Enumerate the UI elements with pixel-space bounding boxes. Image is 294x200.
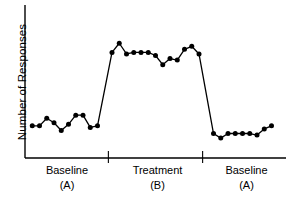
data-series-group [30, 41, 274, 141]
data-point [59, 128, 64, 133]
phase-label-name: Baseline [26, 163, 108, 178]
data-point [52, 120, 57, 125]
data-point [44, 116, 49, 121]
data-point [81, 113, 86, 118]
data-point [218, 136, 223, 141]
data-point [211, 131, 216, 136]
data-point [269, 123, 274, 128]
axes-group [25, 5, 286, 158]
phase-divider-group [108, 151, 202, 163]
data-point [160, 62, 165, 67]
data-point [233, 131, 238, 136]
data-point [88, 125, 93, 130]
data-point [168, 56, 173, 61]
data-point [240, 131, 245, 136]
y-axis-title: Number of Responses [16, 7, 28, 157]
data-point [182, 47, 187, 52]
data-point [139, 50, 144, 55]
data-point [30, 123, 35, 128]
phase-label-baseline-a1: Baseline (A) [26, 163, 108, 193]
data-point-markers [30, 41, 274, 141]
data-point [247, 131, 252, 136]
data-point [73, 113, 78, 118]
data-point [37, 123, 42, 128]
data-point [226, 131, 231, 136]
data-point [131, 50, 136, 55]
phase-label-treatment-b: Treatment (B) [108, 163, 207, 193]
phase-label-name: Baseline [207, 163, 286, 178]
data-point [117, 41, 122, 46]
chart-container: Number of Responses Baseline (A) Treatme… [0, 0, 294, 200]
data-point [124, 51, 129, 56]
phase-label-letter: (A) [207, 178, 286, 193]
data-point [175, 58, 180, 63]
phase-label-baseline-a2: Baseline (A) [207, 163, 286, 193]
data-point [110, 50, 115, 55]
data-point [153, 53, 158, 58]
phase-label-letter: (B) [108, 178, 207, 193]
data-point [197, 51, 202, 56]
data-point [189, 44, 194, 49]
data-point [255, 133, 260, 138]
phase-label-name: Treatment [108, 163, 207, 178]
data-point [146, 50, 151, 55]
data-point [66, 122, 71, 127]
data-point [262, 126, 267, 131]
phase-label-letter: (A) [26, 178, 108, 193]
data-point [95, 123, 100, 128]
